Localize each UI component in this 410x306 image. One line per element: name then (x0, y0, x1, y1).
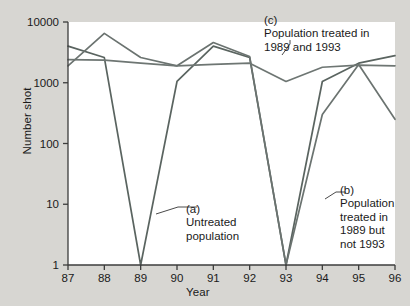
x-tick-label: 93 (280, 272, 293, 284)
x-tick-label: 88 (98, 272, 111, 284)
annotation-untreated-population: (a) Untreated population (186, 203, 239, 243)
chart-figure: Number shot Year 87888990919293949596 11… (0, 0, 410, 306)
x-tick-label: 91 (207, 272, 220, 284)
annotation-treated-1989-not-1993: (b) Population treated in 1989 but not 1… (340, 184, 394, 251)
x-tick-label: 96 (389, 272, 402, 284)
y-tick-label: 1000 (0, 77, 59, 89)
y-tick-label: 1 (0, 259, 59, 271)
x-tick-label: 94 (316, 272, 329, 284)
x-tick-label: 95 (352, 272, 365, 284)
x-tick-label: 90 (171, 272, 184, 284)
x-tick-label: 92 (243, 272, 256, 284)
x-tick-label: 87 (62, 272, 75, 284)
y-tick-label: 100 (0, 138, 59, 150)
y-tick-label: 10000 (0, 16, 59, 28)
y-tick-label: 10 (0, 198, 59, 210)
x-tick-label: 89 (134, 272, 147, 284)
annotation-treated-1989-and-1993: (c) Population treated in 1989 and 1993 (264, 14, 370, 54)
x-axis-title: Year (186, 286, 210, 298)
